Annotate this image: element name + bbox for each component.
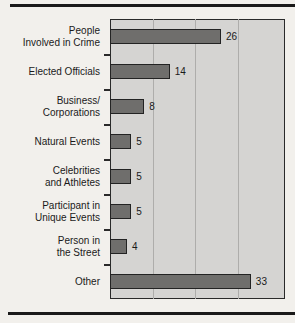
category-label: Person in the Street [57,235,100,258]
bar-series: 26148555433 [110,19,285,299]
bar-row: 8 [110,99,285,114]
category-labels: People Involved in CrimeElected Official… [0,19,106,299]
category-label: Elected Officials [28,66,100,78]
bar-value-label: 5 [136,172,142,182]
bar-value-label: 14 [175,67,186,77]
bar-row: 4 [110,239,285,254]
bar-value-label: 5 [136,137,142,147]
bar-value-label: 5 [136,207,142,217]
bottom-rule [8,312,295,315]
bar-row: 5 [110,134,285,149]
category-label: Celebrities and Athletes [45,165,100,188]
bar-row: 5 [110,204,285,219]
category-label: Natural Events [34,136,100,148]
bar [110,29,221,44]
bar-value-label: 26 [226,32,237,42]
bar-row: 5 [110,169,285,184]
bar [110,274,251,289]
bar [110,204,131,219]
category-label: Business/ Corporations [43,95,100,118]
bar [110,239,127,254]
bar [110,99,144,114]
top-rule [10,4,295,7]
bar [110,134,131,149]
bar-value-label: 33 [256,277,267,287]
bar-row: 26 [110,29,285,44]
bar-row: 33 [110,274,285,289]
bar [110,64,170,79]
category-label: Participant in Unique Events [35,200,100,223]
bar-chart: People Involved in CrimeElected Official… [0,12,295,304]
bar-value-label: 4 [132,242,138,252]
bar [110,169,131,184]
category-label: Other [75,276,100,288]
bar-value-label: 8 [149,102,155,112]
chart-page: People Involved in CrimeElected Official… [0,0,295,323]
bar-row: 14 [110,64,285,79]
category-label: People Involved in Crime [23,25,100,48]
